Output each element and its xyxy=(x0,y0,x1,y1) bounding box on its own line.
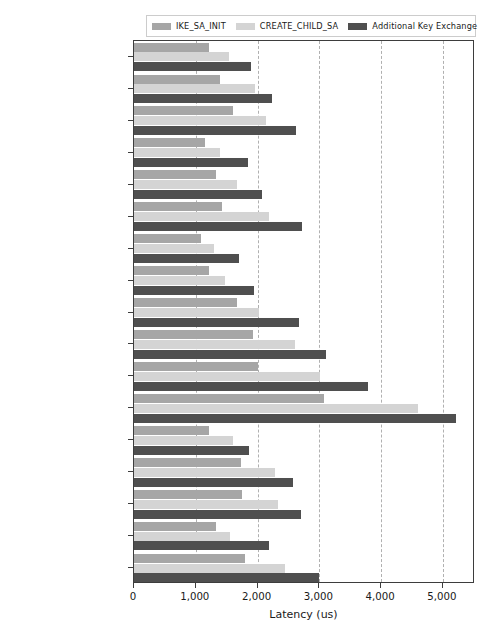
plot-area xyxy=(133,40,474,583)
bar xyxy=(134,382,368,391)
y-tick-mark xyxy=(128,535,133,536)
y-tick-mark xyxy=(128,280,133,281)
x-gridline xyxy=(381,41,382,582)
bar xyxy=(134,308,259,317)
y-tick-mark xyxy=(128,312,133,313)
bar xyxy=(134,478,293,487)
y-tick-mark xyxy=(128,343,133,344)
bar xyxy=(134,510,301,519)
bar xyxy=(134,468,275,477)
y-tick-mark xyxy=(128,152,133,153)
bar xyxy=(134,350,326,359)
legend-swatch-icon xyxy=(348,23,367,30)
legend-label: CREATE_CHILD_SA xyxy=(260,21,338,31)
bar xyxy=(134,446,249,455)
bar xyxy=(134,190,262,199)
bar xyxy=(134,94,272,103)
x-gridline xyxy=(319,41,320,582)
legend-swatch-icon xyxy=(236,23,255,30)
bar xyxy=(134,394,324,403)
y-tick-mark xyxy=(128,248,133,249)
legend-label: IKE_SA_INIT xyxy=(176,21,226,31)
bar xyxy=(134,500,278,509)
bar xyxy=(134,541,269,550)
x-tick-label: 4,000 xyxy=(366,591,395,602)
bar xyxy=(134,372,320,381)
bar xyxy=(134,158,248,167)
bar xyxy=(134,276,225,285)
y-tick-mark xyxy=(128,567,133,568)
bar xyxy=(134,212,269,221)
bar xyxy=(134,286,254,295)
bar xyxy=(134,244,214,253)
bar xyxy=(134,75,220,84)
x-gridline xyxy=(443,41,444,582)
bar xyxy=(134,318,299,327)
x-tick-mark xyxy=(257,583,258,588)
x-tick-mark xyxy=(442,583,443,588)
legend-swatch-icon xyxy=(152,23,171,30)
bar xyxy=(134,126,296,135)
bar xyxy=(134,490,242,499)
x-tick-label: 5,000 xyxy=(427,591,456,602)
y-tick-mark xyxy=(128,375,133,376)
legend-entry[interactable]: IKE_SA_INIT xyxy=(152,21,226,31)
bar xyxy=(134,254,239,263)
x-axis-title: Latency (us) xyxy=(133,608,474,621)
x-tick-mark xyxy=(318,583,319,588)
bar xyxy=(134,202,222,211)
bar xyxy=(134,170,216,179)
y-tick-mark xyxy=(128,439,133,440)
x-tick-mark xyxy=(133,583,134,588)
legend-entry[interactable]: CREATE_CHILD_SA xyxy=(236,21,338,31)
bar xyxy=(134,106,233,115)
y-tick-mark xyxy=(128,88,133,89)
bar xyxy=(134,404,418,413)
y-tick-mark xyxy=(128,56,133,57)
bar xyxy=(134,532,230,541)
bar xyxy=(134,43,209,52)
bar xyxy=(134,234,201,243)
bar xyxy=(134,62,251,71)
bar xyxy=(134,362,258,371)
bar xyxy=(134,436,233,445)
bar xyxy=(134,414,456,423)
legend-label: Additional Key Exchange xyxy=(372,21,477,31)
bar xyxy=(134,340,295,349)
latency-bar-chart-figure: IKE_SA_INITCREATE_CHILD_SAAdditional Key… xyxy=(0,0,492,633)
y-tick-mark xyxy=(128,184,133,185)
y-tick-mark xyxy=(128,216,133,217)
bar xyxy=(134,148,220,157)
bar xyxy=(134,180,237,189)
x-tick-label: 1,000 xyxy=(180,591,209,602)
x-tick-mark xyxy=(195,583,196,588)
bar xyxy=(134,458,241,467)
chart-legend: IKE_SA_INITCREATE_CHILD_SAAdditional Key… xyxy=(146,15,476,37)
bar xyxy=(134,522,216,531)
y-tick-mark xyxy=(128,503,133,504)
x-tick-label: 2,000 xyxy=(242,591,271,602)
y-tick-mark xyxy=(128,120,133,121)
bar xyxy=(134,298,237,307)
bar xyxy=(134,554,245,563)
bar xyxy=(134,84,255,93)
bar xyxy=(134,426,209,435)
x-tick-label: 0 xyxy=(130,591,136,602)
bar xyxy=(134,564,285,573)
x-tick-mark xyxy=(380,583,381,588)
bar xyxy=(134,116,266,125)
x-tick-label: 3,000 xyxy=(304,591,333,602)
y-tick-mark xyxy=(128,407,133,408)
bar xyxy=(134,330,253,339)
legend-entry[interactable]: Additional Key Exchange xyxy=(348,21,477,31)
bar xyxy=(134,573,319,582)
bar xyxy=(134,52,229,61)
bar xyxy=(134,222,302,231)
y-tick-mark xyxy=(128,471,133,472)
bar xyxy=(134,138,205,147)
bar xyxy=(134,266,209,275)
